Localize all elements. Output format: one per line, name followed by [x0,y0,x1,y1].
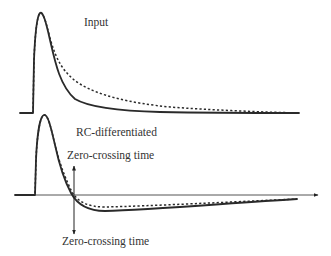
input-panel: Input [20,13,299,113]
input-label: Input [84,16,109,29]
input-curve-solid [20,13,299,113]
rc-differentiated-panel: RC-differentiated Zero-crossing time Zer… [15,115,318,248]
zero-crossing-label-bottom: Zero-crossing time [62,235,149,248]
rc-differentiated-label: RC-differentiated [76,126,157,138]
zero-crossing-label-top: Zero-crossing time [67,149,154,162]
input-curve-dashed [20,13,299,113]
pulse-diagram: Input RC-differentiated Zero-crossing ti… [0,0,331,256]
